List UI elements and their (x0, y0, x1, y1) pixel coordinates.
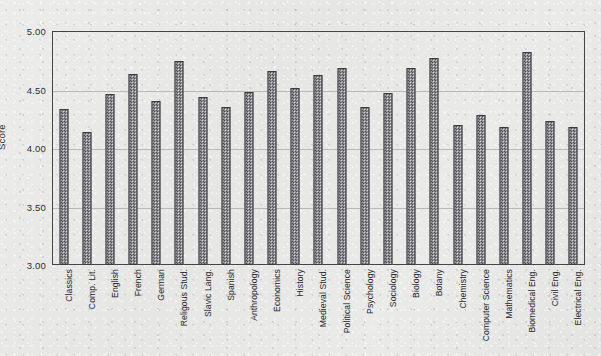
bar-slot (515, 31, 538, 265)
bar[interactable] (291, 88, 300, 265)
x-axis-tick-label: Political Science (342, 269, 352, 333)
x-axis-tick: Chemistry (446, 265, 469, 356)
bar[interactable] (268, 71, 277, 265)
x-axis-tick-label: Psychology (365, 269, 375, 314)
x-axis-tick-label: English (110, 269, 120, 298)
bar[interactable] (244, 92, 253, 265)
x-axis-tick: Comp. Lit. (75, 265, 98, 356)
x-axis-tick-label: Spanish (226, 269, 236, 301)
x-axis-tick-label: Biomedical Eng. (527, 269, 537, 333)
bar-slot (423, 31, 446, 265)
x-axis-tick: German (145, 265, 168, 356)
x-axis-tick-label: Civil Eng. (550, 269, 560, 306)
y-axis-tick-label: 4.50 (0, 84, 46, 95)
bar[interactable] (407, 68, 416, 265)
bar-slot (214, 31, 237, 265)
y-axis-tick-label: 5.00 (0, 26, 46, 37)
bar-slot (261, 31, 284, 265)
x-axis-tick-label: Sociology (388, 269, 398, 307)
x-axis-tick: Economics (261, 265, 284, 356)
bar-slot (469, 31, 492, 265)
x-axis-tick: Biology (400, 265, 423, 356)
bars-layer (52, 31, 585, 265)
x-axis-tick-label: Botany (434, 269, 444, 296)
x-axis-tick-label: Economics (272, 269, 282, 312)
x-axis-tick: Sociology (376, 265, 399, 356)
y-axis-tick-label: 3.00 (0, 260, 46, 271)
bar-slot (52, 31, 75, 265)
x-axis-tick-label: Slavic Lang. (203, 269, 213, 317)
bar[interactable] (569, 127, 578, 265)
x-axis-tick-label: German (156, 269, 166, 301)
bar-slot (376, 31, 399, 265)
bar-slot (330, 31, 353, 265)
x-axis-tick-label: Anthropology (249, 269, 259, 321)
bar-chart: Score 3.003.504.004.505.00 ClassicsComp.… (0, 0, 601, 356)
y-axis-tick-label: 3.50 (0, 201, 46, 212)
bar-slot (284, 31, 307, 265)
x-axis-tick: Computer Science (469, 265, 492, 356)
bar-slot (98, 31, 121, 265)
bar-slot (307, 31, 330, 265)
bar[interactable] (105, 94, 114, 265)
x-axis-tick-label: Religous Stud. (179, 269, 189, 326)
bar-slot (446, 31, 469, 265)
x-axis-tick: Botany (423, 265, 446, 356)
bar[interactable] (175, 61, 184, 265)
x-axis-tick: Biomedical Eng. (515, 265, 538, 356)
x-axis-tick: French (122, 265, 145, 356)
bar[interactable] (476, 115, 485, 265)
x-axis-tick: Psychology (353, 265, 376, 356)
x-axis-tick: English (98, 265, 121, 356)
bar[interactable] (129, 74, 138, 265)
chart-page: Score 3.003.504.004.505.00 ClassicsComp.… (0, 0, 601, 356)
x-axis-tick: Medieval Stud. (307, 265, 330, 356)
bar[interactable] (499, 127, 508, 265)
x-axis-tick: Political Science (330, 265, 353, 356)
x-axis-tick: Religous Stud. (168, 265, 191, 356)
x-axis-tick: Civil Eng. (539, 265, 562, 356)
bar-slot (539, 31, 562, 265)
bar[interactable] (337, 68, 346, 265)
x-axis-tick-label: Mathematics (504, 269, 514, 319)
x-axis-tick: Electrical Eng. (562, 265, 585, 356)
bar[interactable] (198, 97, 207, 265)
bar-slot (562, 31, 585, 265)
x-axis-tick-label: Chemistry (458, 269, 468, 309)
x-axis-tick-label: History (295, 269, 305, 296)
bar-slot (191, 31, 214, 265)
bar[interactable] (152, 101, 161, 265)
x-axis-tick: Mathematics (492, 265, 515, 356)
bar-slot (145, 31, 168, 265)
bar-slot (168, 31, 191, 265)
x-axis-tick: Anthropology (237, 265, 260, 356)
x-axis-tick-label: Medieval Stud. (318, 269, 328, 327)
bar-slot (400, 31, 423, 265)
x-axis-tick: Classics (52, 265, 75, 356)
x-axis-tick-labels: ClassicsComp. Lit.EnglishFrenchGermanRel… (52, 265, 585, 356)
bar[interactable] (314, 75, 323, 265)
bar-slot (75, 31, 98, 265)
bar[interactable] (430, 58, 439, 265)
bar[interactable] (453, 125, 462, 265)
x-axis-tick-label: Electrical Eng. (573, 269, 583, 325)
x-axis-tick-label: French (133, 269, 143, 296)
x-axis-tick-label: Biology (411, 269, 421, 298)
y-axis-tick-label: 4.00 (0, 143, 46, 154)
x-axis-tick-label: Classics (64, 269, 74, 302)
x-axis-tick-label: Comp. Lit. (87, 269, 97, 309)
bar[interactable] (546, 121, 555, 265)
bar[interactable] (523, 52, 532, 265)
x-axis-tick: Spanish (214, 265, 237, 356)
bar[interactable] (221, 107, 230, 265)
x-axis-tick: Slavic Lang. (191, 265, 214, 356)
bar[interactable] (82, 132, 91, 265)
bar-slot (492, 31, 515, 265)
bar-slot (237, 31, 260, 265)
bar[interactable] (384, 93, 393, 265)
bar-slot (122, 31, 145, 265)
bar-slot (353, 31, 376, 265)
x-axis-tick-label: Computer Science (481, 269, 491, 341)
bar[interactable] (360, 107, 369, 265)
bar[interactable] (59, 109, 68, 265)
